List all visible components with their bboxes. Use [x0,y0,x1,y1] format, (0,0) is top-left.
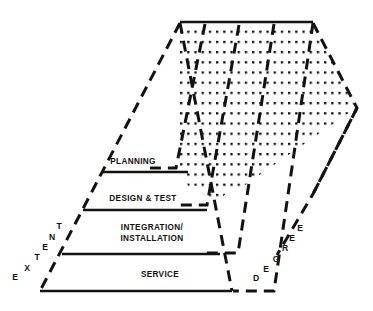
extent-letter-5: T [56,221,62,231]
degree-letter-4: E [289,233,295,243]
extent-letter-3: E [42,242,48,252]
degree-letter-5: E [297,223,303,233]
extent-letter-0: E [12,272,18,282]
degree-letter-0: D [253,273,259,283]
pyramid-diagram-figure: PLANNING DESIGN & TEST INTEGRATION/ INST… [0,0,373,311]
tier-label-design-test: DESIGN & TEST [109,194,176,203]
diagram-root: PLANNING DESIGN & TEST INTEGRATION/ INST… [0,0,373,311]
extent-letter-2: T [34,252,40,262]
degree-letter-3: R [282,243,289,253]
degree-letter-1: E [263,264,269,274]
tier-label-integration-line1: INTEGRATION/ [121,223,184,232]
tier-label-service: SERVICE [141,270,179,279]
extent-letter-4: N [49,232,55,242]
extent-letter-1: X [24,263,30,273]
tier-label-planning: PLANNING [110,157,156,166]
tier-label-integration-line2: INSTALLATION [120,234,183,243]
degree-letter-2: G [273,254,280,264]
extent-axis-label: E X T E N T [12,221,62,282]
dotted-top-face [177,24,356,203]
